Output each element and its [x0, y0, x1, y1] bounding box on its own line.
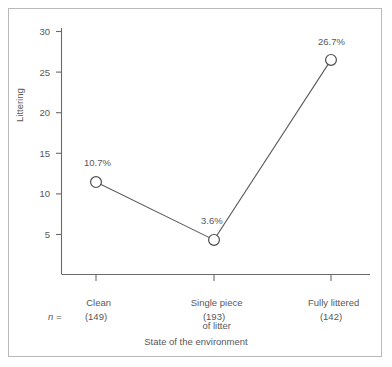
data-point-label: 10.7% — [84, 157, 111, 168]
y-tick-label: 30 — [24, 26, 50, 37]
sample-size-value: (149) — [56, 311, 136, 322]
x-category-label: Fully littered — [291, 285, 371, 308]
x-axis-title: State of the environment — [0, 336, 392, 347]
y-tick-label: 25 — [24, 67, 50, 78]
x-category-label: Single piece of litter — [169, 285, 259, 331]
y-tick-label: 10 — [24, 188, 50, 199]
y-tick-label: 20 — [24, 107, 50, 118]
y-tick-label: 5 — [24, 229, 50, 240]
x-category-label: Clean — [56, 285, 136, 308]
x-category-label-line: Fully littered — [308, 297, 359, 308]
sample-size-value: (193) — [174, 311, 254, 322]
data-point-label: 26.7% — [318, 36, 345, 47]
sample-size-value: (142) — [291, 311, 371, 322]
y-axis-title: Littering — [14, 62, 25, 122]
y-tick-label: 15 — [24, 148, 50, 159]
x-category-label-line: Clean — [86, 297, 111, 308]
data-point-label: 3.6% — [201, 215, 223, 226]
x-category-label-line: Single piece — [191, 297, 243, 308]
